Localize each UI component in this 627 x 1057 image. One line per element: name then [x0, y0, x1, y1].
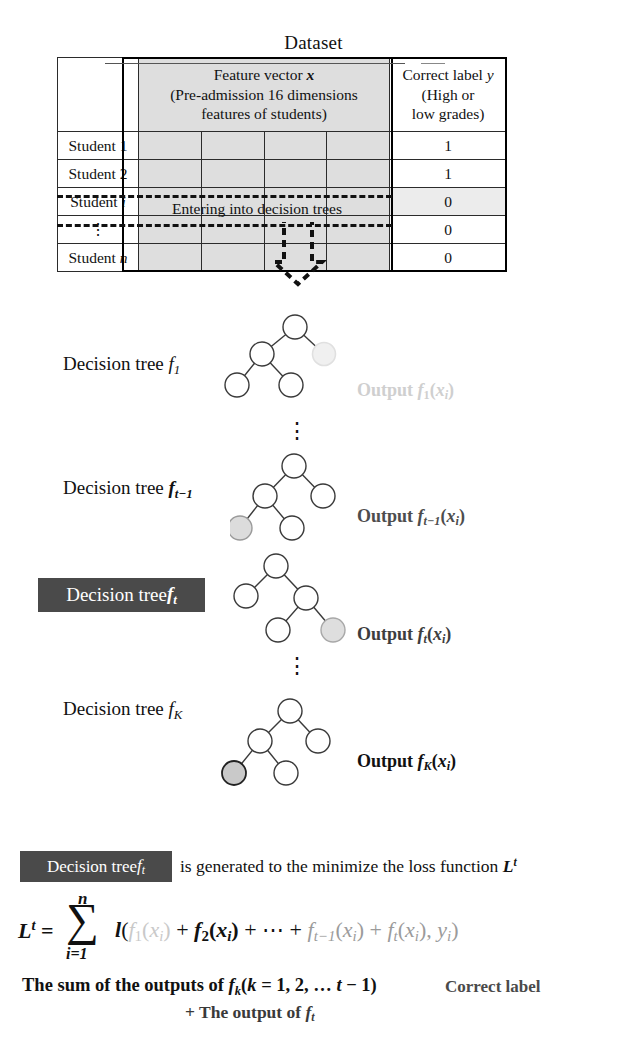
header-feature-line3: features of students): [139, 104, 389, 123]
decision-tree-f1: [215, 305, 345, 410]
tree-node-leaf: [225, 373, 249, 397]
entering-note: Entering into decision trees: [122, 200, 392, 218]
feature-cell: [327, 132, 390, 160]
header-feature-vector: Feature vector x (Pre-admission 16 dimen…: [139, 58, 390, 132]
feature-cell: [201, 244, 264, 272]
header-label-line1: Correct label y: [390, 65, 506, 84]
tree-node-internal: [248, 729, 272, 753]
formula-body: l(f1(xi) + f2(xi) + ⋯ + ft−1(xi) + ft(xi…: [115, 917, 458, 945]
ellipsis-trees-2: ⋮: [286, 655, 308, 677]
row-label-value: 1: [390, 160, 507, 188]
tree-node-internal: [250, 342, 274, 366]
tree-node-leaf: [274, 761, 298, 785]
loss-formula: Lt = n ∑ i=1 l(f1(xi) + f2(xi) + ⋯ + ft−…: [18, 893, 618, 965]
tree-node-internal: [294, 586, 318, 610]
feature-cell: [139, 160, 202, 188]
sentence-boxed-text: Decision tree ft: [20, 851, 172, 882]
row-label-value: 0: [390, 216, 507, 244]
row-name: Student 1: [58, 132, 139, 160]
decision-tree-ft-minus-1: [230, 448, 360, 553]
tree-node-root: [282, 454, 306, 478]
output-label-f1: Output f1(xi): [357, 380, 454, 403]
page-title: Dataset: [0, 32, 627, 54]
caption-plus: + The output of ft: [185, 1002, 315, 1025]
output-label-ft: Output ft(xi): [357, 624, 451, 647]
table-header-row: Feature vector x (Pre-admission 16 dimen…: [58, 58, 507, 132]
highlight-band-top: [57, 195, 392, 198]
feature-cell: [327, 244, 390, 272]
tree-label-ft-minus-1: Decision tree ft−1: [63, 477, 193, 502]
formula-sigma: ∑: [66, 897, 99, 943]
tree-node-leaf: [311, 484, 335, 508]
header-correct-label: Correct label y (High or low grades): [390, 58, 507, 132]
sentence-rest: is generated to the minimize the loss fu…: [180, 856, 517, 877]
tree-node-internal: [253, 484, 277, 508]
header-feature-line1: Feature vector x: [139, 65, 389, 84]
ellipsis-trees-1: ⋮: [286, 420, 308, 442]
row-name-ellipsis: ⋮: [58, 216, 139, 244]
formula-lhs: Lt =: [18, 917, 54, 944]
formula-underline-sum: [105, 63, 405, 64]
feature-cell: [201, 216, 264, 244]
sentence-boxed-label: Decision tree ft: [20, 851, 172, 882]
entry-arrow-icon: [270, 222, 326, 294]
output-label-fK: Output fK(xi): [357, 751, 456, 774]
tree-node-highlighted: [313, 343, 336, 366]
feature-cell: [201, 132, 264, 160]
row-name: Student 2: [58, 160, 139, 188]
header-blank-cell: [58, 58, 139, 132]
caption-sum: The sum of the outputs of fk(k = 1, 2, ……: [22, 975, 377, 999]
feature-cell: [139, 216, 202, 244]
tree-node-highlighted: [230, 516, 252, 540]
tree-node-leaf: [279, 373, 303, 397]
tree-label-ft: Decision tree ft: [38, 578, 205, 612]
feature-cell: [139, 244, 202, 272]
table-row: Student 2 1: [58, 160, 507, 188]
tree-label-ft-box: Decision tree ft: [38, 578, 205, 612]
feature-cell: [264, 160, 327, 188]
formula-underline-label: [421, 63, 445, 64]
output-label-ft-minus-1: Output ft−1(xi): [357, 506, 465, 529]
table-row: Student 1 1: [58, 132, 507, 160]
tree-node-leaf: [280, 516, 304, 540]
row-label-value: 0: [390, 244, 507, 272]
highlight-band-bottom: [57, 224, 392, 227]
tree-node-highlighted: [321, 618, 345, 642]
feature-cell: [139, 132, 202, 160]
header-label-line3: low grades): [390, 104, 506, 123]
tree-label-fK: Decision tree fK: [63, 698, 182, 723]
feature-cell: [327, 216, 390, 244]
decision-tree-ft: [218, 548, 358, 658]
header-label-line2: (High or: [390, 85, 506, 104]
decision-tree-fK: [220, 693, 360, 803]
header-feature-line2: (Pre-admission 16 dimensions: [139, 85, 389, 104]
formula-sum-lower: i=1: [66, 945, 88, 963]
tree-node-highlighted: [222, 761, 246, 785]
row-label-value: 1: [390, 132, 507, 160]
tree-node-leaf: [266, 618, 290, 642]
tree-node-root: [278, 699, 302, 723]
tree-node-root: [283, 315, 307, 339]
feature-cell: [327, 160, 390, 188]
feature-cell: [264, 132, 327, 160]
feature-cell: [201, 160, 264, 188]
tree-label-f1: Decision tree f1: [63, 353, 180, 378]
tree-node-leaf: [306, 729, 330, 753]
row-name: Student n: [58, 244, 139, 272]
row-label-value: 0: [390, 188, 507, 216]
tree-node-leaf: [234, 584, 258, 608]
table-label-separator: [391, 57, 393, 272]
tree-node-root: [264, 554, 288, 578]
caption-correct-label: Correct label: [445, 977, 541, 997]
